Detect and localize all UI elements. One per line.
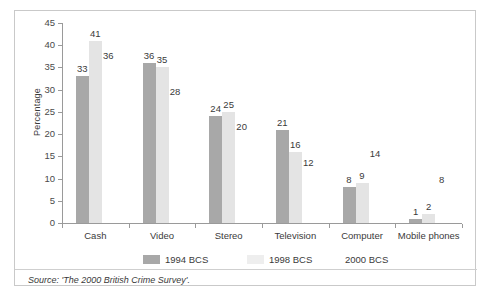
y-tick-mark — [58, 134, 62, 135]
x-axis-label: Stereo — [215, 230, 243, 241]
bar — [169, 99, 182, 223]
y-tick-mark — [58, 23, 62, 24]
bar — [343, 187, 356, 223]
y-tick-mark — [58, 90, 62, 91]
bar-group-bars — [209, 23, 248, 223]
x-tick-mark — [129, 224, 130, 228]
y-tick-label: 15 — [29, 151, 55, 161]
y-tick-mark — [58, 45, 62, 46]
bar — [422, 214, 435, 223]
x-tick-mark — [462, 224, 463, 228]
y-tick-label: 35 — [29, 62, 55, 72]
bar — [209, 116, 222, 223]
y-tick-mark — [58, 67, 62, 68]
y-tick-label: 25 — [29, 107, 55, 117]
x-tick-mark — [195, 224, 196, 228]
x-tick-mark — [262, 224, 263, 228]
x-axis-label: Video — [150, 230, 174, 241]
bar — [369, 161, 382, 223]
x-tick-mark — [329, 224, 330, 228]
legend-item: 2000 BCS — [345, 254, 388, 265]
x-axis-label: Television — [274, 230, 316, 241]
y-tick-label: 20 — [29, 129, 55, 139]
x-tick-mark — [62, 224, 63, 228]
bar-group-bars — [343, 23, 382, 223]
y-tick-label: 45 — [29, 18, 55, 28]
y-tick-mark — [58, 179, 62, 180]
legend-label: 1998 BCS — [269, 254, 312, 265]
plot-area: Percentage 454035302520151050 3341363635… — [15, 11, 477, 243]
bar-group-bars — [143, 23, 182, 223]
legend-item: 1994 BCS — [143, 254, 208, 265]
y-axis-line — [62, 23, 63, 223]
x-tick-mark — [395, 224, 396, 228]
bar — [289, 152, 302, 223]
bar — [409, 219, 422, 223]
bar — [276, 130, 289, 223]
bar — [143, 63, 156, 223]
bar — [76, 76, 89, 223]
legend-item: 1998 BCS — [247, 254, 312, 265]
legend-swatch — [247, 255, 264, 264]
x-axis-label: Mobile phones — [398, 230, 460, 241]
footer-divider — [15, 269, 477, 270]
legend-swatch — [143, 255, 160, 264]
bar-group-bars — [76, 23, 115, 223]
x-axis-label: Computer — [341, 230, 383, 241]
y-tick-label: 10 — [29, 174, 55, 184]
y-tick-label: 40 — [29, 40, 55, 50]
legend-label: 2000 BCS — [345, 254, 388, 265]
bar — [222, 112, 235, 223]
y-tick-mark — [58, 156, 62, 157]
bar — [435, 187, 448, 223]
chart-legend: 1994 BCS1998 BCS2000 BCS — [15, 254, 477, 270]
y-tick-mark — [58, 201, 62, 202]
bar — [102, 63, 115, 223]
bar — [302, 170, 315, 223]
chart-figure: Percentage 454035302520151050 3341363635… — [14, 10, 476, 286]
y-tick-label: 5 — [29, 196, 55, 206]
x-axis-label: Cash — [84, 230, 106, 241]
y-tick-label: 0 — [29, 218, 55, 228]
bar-group-bars — [409, 23, 448, 223]
bar — [156, 67, 169, 223]
bar — [89, 41, 102, 223]
legend-label: 1994 BCS — [165, 254, 208, 265]
y-tick-mark — [58, 112, 62, 113]
source-note: Source: 'The 2000 British Crime Survey'. — [28, 275, 190, 285]
bar — [235, 134, 248, 223]
y-tick-label: 30 — [29, 85, 55, 95]
bar-group-bars — [276, 23, 315, 223]
bar — [356, 183, 369, 223]
